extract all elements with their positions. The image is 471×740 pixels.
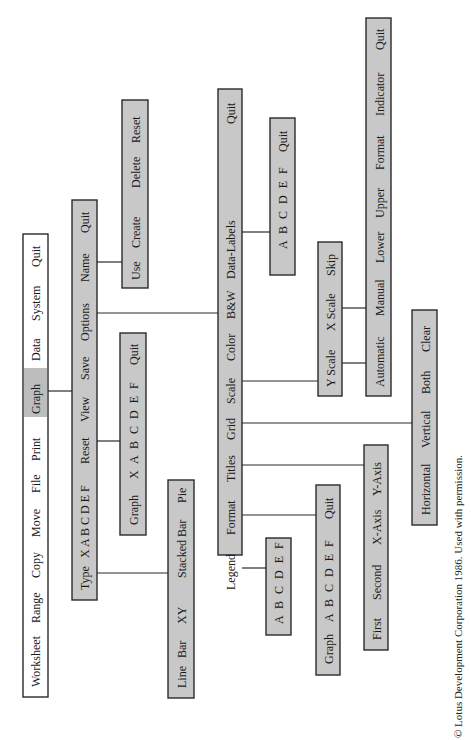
graph-menu-item-view[interactable]: View [78,396,92,422]
main-menu-item-system[interactable]: System [29,285,43,321]
graph-menu-item-ranges[interactable]: X A B C D E F [78,485,92,558]
name-menu-item-use[interactable]: Use [129,261,143,280]
scale-options-item-quit[interactable]: Quit [373,28,387,50]
options-menu-item-quit[interactable]: Quit [224,102,238,124]
name-menu-item-reset[interactable]: Reset [129,116,143,143]
grid-menu-item-clear[interactable]: Clear [419,326,433,352]
scale-options-menu: Automatic Manual Lower Upper Format Indi… [366,18,391,396]
reset-menu-item-graph[interactable]: Graph [127,495,141,525]
name-menu-item-create[interactable]: Create [129,217,143,248]
type-menu-box [168,480,194,698]
graph-menu-item-quit[interactable]: Quit [78,211,92,233]
grid-menu-item-vertical[interactable]: Vertical [419,410,433,448]
scale-options-item-manual[interactable]: Manual [373,279,387,316]
scale-options-item-automatic[interactable]: Automatic [373,336,387,387]
type-menu-item-xy[interactable]: XY [175,606,189,624]
titles-menu-item-y-axis[interactable]: Y-Axis [370,462,384,496]
graph-menu-item-type[interactable]: Type [78,566,92,590]
legend-menu-item-ranges[interactable]: A B C D E F [272,540,286,624]
type-menu-item-line[interactable]: Line [175,666,189,688]
scale-menu-item-x-scale[interactable]: X Scale [324,293,338,331]
titles-menu: First Second X-Axis Y-Axis [364,445,388,650]
graph-menu: Type X A B C D E F Reset View Save Optio… [72,200,97,600]
graph-menu-item-name[interactable]: Name [78,253,92,282]
menu-tree-diagram: Worksheet Range Copy Move File Print Gra… [0,0,471,740]
grid-menu-item-both[interactable]: Both [419,371,433,394]
grid-menu-item-horizontal[interactable]: Horizontal [419,463,433,515]
options-menu-item-color[interactable]: Color [224,334,238,361]
scale-menu-item-skip[interactable]: Skip [324,254,338,276]
format-menu-item-ranges[interactable]: A B C D E F [322,538,336,622]
name-menu: Use Create Delete Reset [122,100,148,288]
graph-menu-item-options[interactable]: Options [78,303,92,341]
titles-menu-item-second[interactable]: Second [370,565,384,600]
main-menu-item-range[interactable]: Range [29,592,43,623]
reset-menu-item-quit[interactable]: Quit [127,343,141,365]
scale-options-item-lower[interactable]: Lower [373,232,387,263]
reset-menu: Graph X A B C D E F Quit [120,333,146,535]
scale-menu-item-y-scale[interactable]: Y Scale [324,350,338,387]
type-menu-item-pie[interactable]: Pie [175,488,189,503]
options-menu-item-bw[interactable]: B&W [224,290,238,319]
main-menu-item-print[interactable]: Print [29,437,43,461]
main-menu-item-copy[interactable]: Copy [29,552,43,578]
main-menu-item-quit[interactable]: Quit [29,245,43,267]
options-menu: Legend Format Titles Grid Scale Color B&… [218,89,242,590]
data-labels-menu-item-quit[interactable]: Quit [276,130,290,152]
type-menu-item-stacked-bar[interactable]: Stacked Bar [175,520,189,578]
scale-options-item-upper[interactable]: Upper [373,188,387,218]
titles-menu-item-x-axis[interactable]: X-Axis [370,509,384,545]
options-menu-item-titles[interactable]: Titles [224,455,238,482]
name-menu-item-delete[interactable]: Delete [129,157,143,188]
type-menu: Line Bar XY Stacked Bar Pie [168,480,194,698]
graph-menu-item-reset[interactable]: Reset [78,437,92,464]
data-labels-menu-item-ranges[interactable]: A B C D E F [276,165,290,249]
grid-menu: Horizontal Vertical Both Clear [412,310,437,525]
scale-options-item-indicator[interactable]: Indicator [373,73,387,116]
scale-options-item-format[interactable]: Format [373,135,387,170]
main-menu-item-graph[interactable]: Graph [29,384,43,414]
copyright-notice: © Lotus Development Corporation 1986. Us… [452,455,464,738]
options-menu-item-legend[interactable]: Legend [224,554,238,590]
options-menu-item-grid[interactable]: Grid [224,418,238,440]
format-menu-item-graph[interactable]: Graph [322,634,336,664]
main-menu: Worksheet Range Copy Move File Print Gra… [23,234,48,697]
type-menu-item-bar[interactable]: Bar [175,641,189,658]
options-menu-box [218,89,242,555]
main-menu-item-move[interactable]: Move [29,509,43,537]
format-menu-item-quit[interactable]: Quit [322,497,336,519]
scale-menu: Y Scale X Scale Skip [318,242,342,396]
titles-menu-item-first[interactable]: First [370,617,384,640]
options-menu-item-data-labels[interactable]: Data-Labels [224,220,238,279]
data-labels-menu: A B C D E F Quit [270,118,295,275]
legend-menu: A B C D E F [266,538,291,635]
graph-menu-item-save[interactable]: Save [78,357,92,380]
main-menu-item-data[interactable]: Data [29,338,43,361]
options-menu-item-format[interactable]: Format [224,500,238,535]
main-menu-item-worksheet[interactable]: Worksheet [29,635,43,687]
reset-menu-item-ranges[interactable]: X A B C D E F [127,380,141,479]
format-menu: Graph A B C D E F Quit [316,485,340,675]
main-menu-item-file[interactable]: File [29,474,43,493]
options-menu-item-scale[interactable]: Scale [224,378,238,404]
